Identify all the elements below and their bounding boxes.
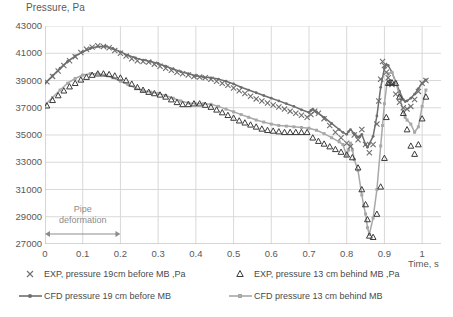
series-marker — [367, 150, 372, 155]
series-point — [232, 110, 235, 113]
series-marker — [321, 141, 327, 146]
series-point — [413, 93, 416, 96]
series-marker — [299, 129, 305, 134]
series-marker — [359, 127, 364, 132]
series-point — [406, 119, 409, 122]
legend-marker-line-dot — [18, 290, 44, 302]
legend-marker-triangle — [228, 268, 254, 280]
x-tick-label: 0.2 — [100, 248, 140, 259]
y-tick-label: 31000 — [0, 184, 42, 195]
annotation-arrow — [45, 225, 120, 243]
series-marker — [225, 112, 231, 117]
series-point — [349, 142, 352, 145]
series-point — [338, 128, 341, 131]
series-marker — [265, 127, 271, 132]
series-marker — [112, 73, 118, 78]
legend-marker-x — [18, 268, 44, 280]
legend-item[interactable]: CFD pressure 19 cm before MB — [18, 290, 171, 302]
series-marker — [378, 184, 384, 189]
series-marker — [253, 124, 259, 129]
series-point — [240, 113, 243, 116]
series-point — [330, 136, 333, 139]
x-tick-label: 0 — [25, 248, 65, 259]
series-point — [360, 133, 363, 136]
series-point — [277, 100, 280, 103]
annotation-label: Pipedeformation — [28, 204, 138, 226]
series-point — [345, 133, 348, 136]
series-marker — [316, 138, 322, 143]
series-point — [383, 102, 386, 105]
x-tick-label: 0.5 — [214, 248, 254, 259]
series-point — [381, 124, 384, 127]
x-tick-label: 0.8 — [327, 248, 367, 259]
series-marker — [293, 111, 298, 116]
series-marker — [288, 109, 293, 114]
series-marker — [412, 151, 418, 156]
series-point — [262, 121, 265, 124]
series-marker — [293, 129, 299, 134]
series-point — [292, 125, 295, 128]
series-point — [364, 213, 367, 216]
series-point — [315, 129, 318, 132]
series-point — [404, 116, 407, 119]
series-marker — [242, 91, 247, 96]
x-tick-label: 0.6 — [251, 248, 291, 259]
series-point — [372, 217, 375, 220]
series-point — [81, 74, 84, 77]
y-axis-title: Pressure, Pa — [26, 2, 85, 13]
series-marker — [338, 149, 344, 154]
series-marker — [333, 146, 339, 151]
series-point — [277, 124, 280, 127]
series-marker — [310, 135, 316, 140]
legend-item[interactable]: EXP, pressure 13 cm behind MB ,Pa — [228, 268, 399, 280]
series-line — [45, 46, 426, 147]
series-point — [366, 226, 369, 229]
series-point — [323, 132, 326, 135]
legend-label: EXP, pressure 13 cm behind MB ,Pa — [254, 269, 399, 279]
series-point — [372, 135, 375, 138]
series-marker — [371, 142, 376, 147]
chart-root: Pressure, Pa Time, s 2700029000310003300… — [0, 0, 453, 317]
legend-item[interactable]: EXP, pressure 19cm before MB ,Pa — [18, 268, 185, 280]
series-point — [255, 119, 258, 122]
y-tick-label: 37000 — [0, 102, 42, 113]
series-marker — [254, 96, 259, 101]
series-point — [59, 89, 62, 92]
series-point — [247, 116, 250, 119]
series-marker — [408, 143, 414, 148]
series-marker — [248, 94, 253, 99]
series-marker — [225, 83, 230, 88]
series-marker — [374, 211, 380, 216]
series-marker — [219, 110, 225, 115]
series-point — [413, 131, 416, 134]
series-marker — [282, 129, 288, 134]
legend-item[interactable]: CFD pressure 13 cm behind MB — [228, 290, 383, 302]
x-tick-label: 0.7 — [289, 248, 329, 259]
series-point — [255, 91, 258, 94]
series-point — [368, 142, 371, 145]
series-point — [406, 100, 409, 103]
series-point — [342, 131, 345, 134]
series-point — [424, 89, 427, 92]
y-tick-label: 35000 — [0, 129, 42, 140]
series-marker — [333, 130, 338, 135]
series-point — [293, 105, 296, 108]
chart-legend: EXP, pressure 19cm before MB ,PaEXP, pre… — [0, 264, 453, 317]
series-point — [360, 193, 363, 196]
series-point — [421, 105, 424, 108]
series-point — [285, 102, 288, 105]
series-point — [390, 71, 393, 74]
series-marker — [327, 123, 332, 128]
series-point — [375, 115, 378, 118]
series-marker — [404, 127, 410, 132]
series-point — [300, 108, 303, 111]
x-tick-label: 0.4 — [176, 248, 216, 259]
legend-label: CFD pressure 19 cm before MB — [44, 291, 171, 301]
series-marker — [393, 92, 398, 97]
legend-label: CFD pressure 13 cm behind MB — [254, 291, 383, 301]
series-marker — [248, 122, 254, 127]
series-marker — [287, 129, 293, 134]
series-point — [308, 127, 311, 130]
series-marker — [412, 97, 417, 102]
series-marker — [72, 80, 78, 85]
